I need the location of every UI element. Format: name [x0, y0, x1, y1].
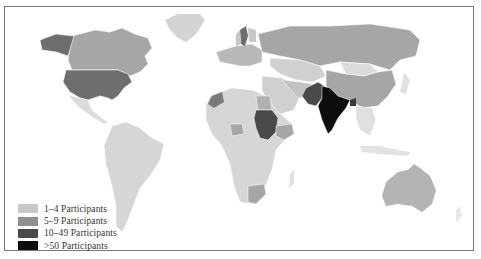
region-ethiopia: [276, 124, 294, 140]
region-madagascar: [289, 170, 294, 188]
region-europe: [216, 44, 262, 66]
region-australia: [382, 164, 436, 212]
region-egypt: [256, 96, 272, 110]
region-new-zealand: [456, 206, 462, 222]
region-south-africa: [248, 184, 266, 204]
legend-item: 10–49 Participants: [18, 228, 117, 240]
legend-item: 5–9 Participants: [18, 215, 117, 227]
region-canada: [68, 28, 152, 76]
region-alaska: [40, 34, 74, 56]
legend-swatch-10-49: [18, 229, 38, 238]
region-japan: [400, 72, 410, 94]
region-greenland: [165, 14, 205, 42]
map-legend: 1–4 Participants 5–9 Participants 10–49 …: [18, 203, 117, 252]
legend-label: 5–9 Participants: [44, 216, 107, 226]
region-nigeria: [230, 124, 244, 136]
region-sweden: [240, 26, 248, 46]
legend-swatch-5-9: [18, 217, 38, 226]
region-indonesia: [360, 146, 410, 156]
legend-item: 1–4 Participants: [18, 203, 117, 215]
region-southeast-asia: [356, 106, 376, 136]
legend-swatch-50-plus: [18, 241, 38, 250]
region-united-states: [63, 70, 132, 100]
legend-label: 1–4 Participants: [44, 204, 107, 214]
legend-label: >50 Participants: [44, 241, 108, 251]
legend-item: >50 Participants: [18, 240, 117, 252]
legend-swatch-1-4: [18, 204, 38, 213]
legend-label: 10–49 Participants: [44, 228, 117, 238]
